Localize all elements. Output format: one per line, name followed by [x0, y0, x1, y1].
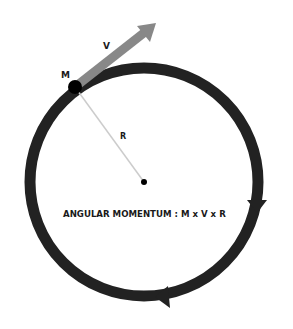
diagram-canvas [0, 0, 293, 329]
mass-label: M [61, 70, 70, 80]
center-dot [141, 179, 147, 185]
radius-label: R [120, 132, 126, 141]
formula-label: ANGULAR MOMENTUM : M x V x R [63, 209, 226, 219]
velocity-label: V [103, 41, 110, 51]
radius-line [75, 87, 144, 182]
mass-dot [68, 80, 82, 94]
